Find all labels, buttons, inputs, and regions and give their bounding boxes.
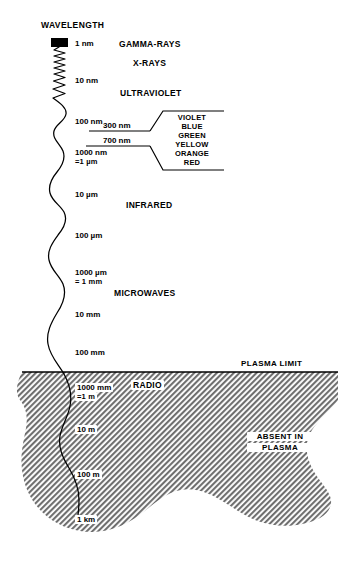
visible-upper-bound-label: 300 nm (103, 121, 131, 130)
tick-sublabel: =1 m (75, 392, 97, 401)
absent-in-plasma-label-line2: PLASMA (247, 443, 313, 452)
tick-label: 1000 µm (75, 268, 107, 277)
tick-label: 100 nm (75, 117, 103, 126)
tick-label: 1 nm (75, 39, 94, 48)
tick-label: 100 µm (75, 231, 102, 240)
band-label-infrared: INFRARED (126, 200, 172, 210)
band-label-microwaves: MICROWAVES (114, 288, 175, 298)
gamma-ray-block (51, 38, 68, 47)
band-label-x-rays: X-RAYS (133, 58, 166, 68)
tick-label: 1000 mm (75, 383, 113, 392)
page-title: WAVELENGTH (41, 20, 104, 30)
absent-in-plasma-label-line1: ABSENT IN (247, 432, 313, 441)
tick-label: 1000 nm (75, 148, 107, 157)
visible-color-red: RED (163, 159, 221, 168)
absent-in-plasma-region (0, 360, 346, 560)
em-spectrum-figure: WAVELENGTH 1 nm 10 nm 100 nm 1000 nm =1 … (0, 0, 346, 568)
tick-label: 10 nm (75, 76, 98, 85)
tick-label: 1 km (75, 515, 97, 524)
tick-label: 10 m (75, 425, 97, 434)
tick-label: 10 mm (75, 310, 100, 319)
visible-lower-bound-label: 700 nm (103, 136, 131, 145)
tick-sublabel: =1 µm (75, 157, 98, 166)
band-label-gamma-rays: GAMMA-RAYS (119, 39, 181, 49)
plasma-limit-label: PLASMA LIMIT (241, 359, 302, 368)
tick-label: 100 mm (75, 348, 105, 357)
tick-label: 10 µm (75, 190, 98, 199)
tick-label: 100 m (75, 470, 102, 479)
band-label-radio: RADIO (131, 380, 164, 390)
tick-sublabel: = 1 mm (75, 277, 102, 286)
figure-canvas (0, 0, 346, 568)
band-label-ultraviolet: ULTRAVIOLET (120, 88, 182, 98)
